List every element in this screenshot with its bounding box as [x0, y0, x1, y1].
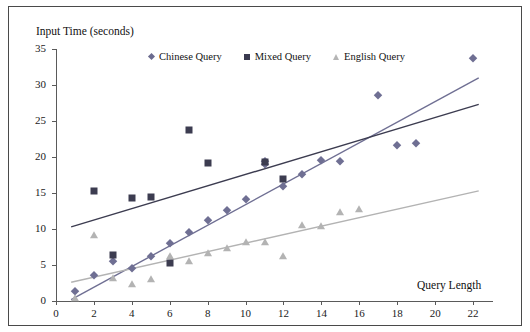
y-tick-label: 35	[22, 42, 46, 54]
data-point	[128, 195, 135, 202]
x-tick	[132, 301, 133, 305]
x-tick	[94, 301, 95, 305]
y-tick-label: 20	[22, 150, 46, 162]
trendline	[71, 104, 479, 226]
x-tick	[283, 301, 284, 305]
x-tick	[397, 301, 398, 305]
x-tick-label: 20	[425, 307, 445, 319]
x-axis-line	[56, 301, 493, 302]
y-tick-label: 0	[22, 294, 46, 306]
data-point	[90, 187, 97, 194]
y-tick-label: 10	[22, 222, 46, 234]
data-point	[185, 258, 193, 265]
data-point	[261, 159, 268, 166]
x-tick	[170, 301, 171, 305]
data-point	[147, 276, 155, 283]
data-point	[355, 205, 363, 212]
data-point	[261, 238, 269, 245]
data-point	[128, 280, 136, 287]
x-tick-label: 4	[122, 307, 142, 319]
x-tick-label: 8	[198, 307, 218, 319]
x-tick	[56, 301, 57, 305]
data-point	[336, 208, 344, 215]
data-point	[223, 244, 231, 251]
x-tick-label: 6	[160, 307, 180, 319]
data-point	[71, 294, 79, 301]
x-tick	[321, 301, 322, 305]
data-point	[109, 251, 116, 258]
data-point	[204, 160, 211, 167]
chart-page: Input Time (seconds) Query Length Chines…	[0, 0, 530, 332]
y-tick-label: 30	[22, 78, 46, 90]
x-tick-label: 2	[84, 307, 104, 319]
x-tick-label: 22	[463, 307, 483, 319]
x-tick-label: 12	[273, 307, 293, 319]
data-point	[317, 222, 325, 229]
y-tick-label: 15	[22, 186, 46, 198]
trendlines-layer	[56, 49, 492, 301]
data-point	[298, 221, 306, 228]
x-tick	[473, 301, 474, 305]
plot-area	[56, 49, 492, 301]
data-point	[204, 250, 212, 257]
data-point	[166, 252, 174, 259]
y-tick-label: 25	[22, 114, 46, 126]
data-point	[147, 193, 154, 200]
y-tick-label: 5	[22, 258, 46, 270]
x-tick	[435, 301, 436, 305]
x-tick-label: 0	[46, 307, 66, 319]
data-point	[185, 127, 192, 134]
data-point	[109, 274, 117, 281]
data-point	[280, 175, 287, 182]
x-tick-label: 16	[349, 307, 369, 319]
x-tick-label: 14	[311, 307, 331, 319]
x-tick	[359, 301, 360, 305]
data-point	[166, 259, 173, 266]
y-axis-title: Input Time (seconds)	[36, 25, 134, 37]
x-tick-label: 18	[387, 307, 407, 319]
x-tick	[208, 301, 209, 305]
data-point	[242, 238, 250, 245]
chart-frame: Input Time (seconds) Query Length Chines…	[8, 6, 522, 326]
data-point	[279, 253, 287, 260]
data-point	[90, 231, 98, 238]
x-tick	[246, 301, 247, 305]
x-tick-label: 10	[236, 307, 256, 319]
